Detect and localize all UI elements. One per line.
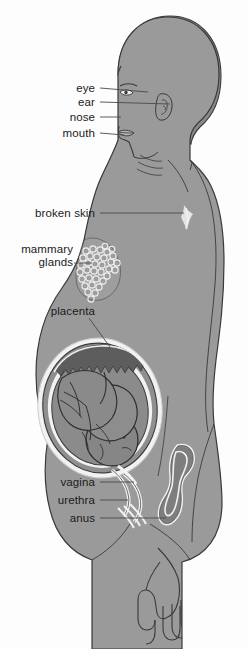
leader-ear	[100, 102, 170, 104]
label-ear: ear	[78, 96, 95, 109]
label-eye: eye	[76, 82, 95, 95]
label-nose: nose	[70, 111, 95, 124]
label-vagina: vagina	[61, 476, 96, 489]
label-mammary-glands: mammary glands	[21, 243, 73, 268]
label-mouth: mouth	[63, 127, 95, 140]
leader-lines-group	[0, 0, 248, 649]
label-urethra: urethra	[58, 494, 95, 507]
diagram-canvas: eye ear nose mouth broken skin mammary g…	[0, 0, 248, 649]
label-broken-skin: broken skin	[35, 207, 95, 220]
leader-placenta	[89, 318, 110, 347]
label-placenta: placenta	[51, 305, 95, 318]
leader-eye	[100, 88, 148, 92]
label-anus: anus	[70, 512, 95, 525]
leader-mouth	[100, 133, 124, 135]
